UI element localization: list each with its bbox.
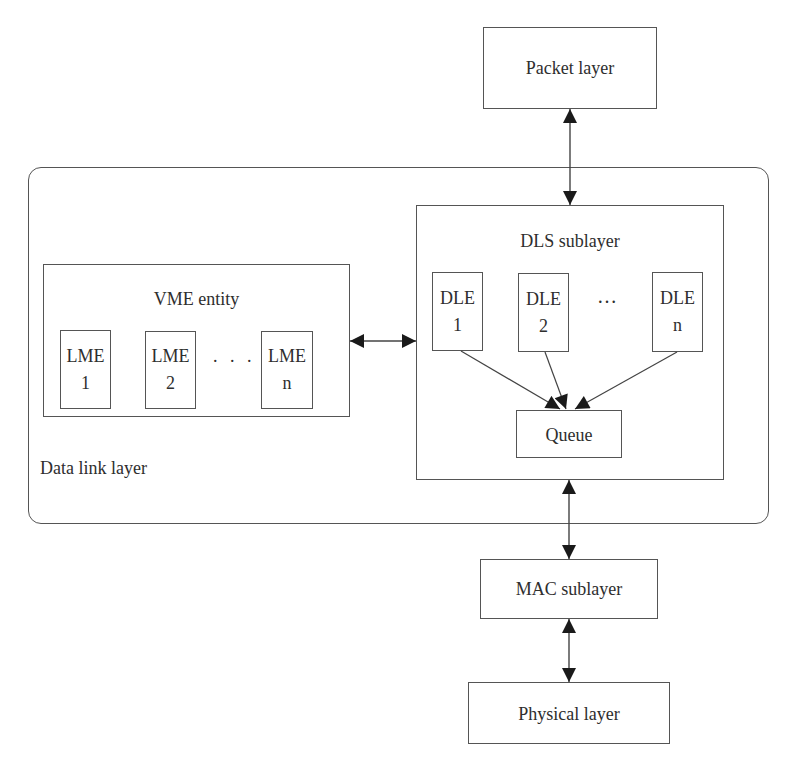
physical-layer-label: Physical layer [469, 705, 669, 723]
dls-sublayer-label: DLS sublayer [417, 232, 723, 250]
dle-2-index: 2 [539, 313, 548, 340]
dle-n-index: n [673, 312, 682, 339]
lme-2-index: 2 [166, 370, 175, 397]
dle-1-name: DLE [440, 285, 475, 312]
dle-1-index: 1 [453, 312, 462, 339]
lme-n-name: LME [268, 343, 306, 370]
lme-n-index: n [283, 370, 292, 397]
data-link-layer-label: Data link layer [40, 459, 147, 477]
dle-n-name: DLE [660, 285, 695, 312]
mac-sublayer-box: MAC sublayer [480, 559, 658, 619]
dle-n-box: DLE n [652, 272, 703, 352]
lme-1-index: 1 [81, 370, 90, 397]
dle-2-name: DLE [526, 286, 561, 313]
lme-n-box: LME n [261, 331, 313, 409]
lme-2-name: LME [152, 343, 190, 370]
mac-sublayer-label: MAC sublayer [481, 580, 657, 598]
dle-ellipsis: … [597, 285, 617, 308]
physical-layer-box: Physical layer [468, 682, 670, 744]
dle-1-box: DLE 1 [432, 272, 483, 351]
queue-label: Queue [517, 426, 621, 444]
lme-2-box: LME 2 [145, 331, 196, 409]
lme-1-name: LME [67, 343, 105, 370]
queue-box: Queue [516, 410, 622, 458]
dle-2-box: DLE 2 [518, 273, 569, 352]
packet-layer-label: Packet layer [484, 59, 656, 77]
lme-ellipsis: . . . [213, 346, 256, 367]
lme-1-box: LME 1 [60, 330, 111, 409]
packet-layer-box: Packet layer [483, 27, 657, 109]
vme-entity-label: VME entity [44, 290, 349, 308]
